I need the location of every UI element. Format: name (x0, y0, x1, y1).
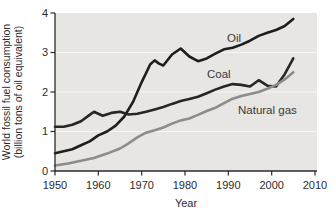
x-tick-label-1960: 1960 (86, 179, 110, 191)
y-axis-title-line2: (billion tons of oil equivalent) (12, 26, 24, 159)
y-tick-label-1: 1 (42, 125, 48, 137)
x-tick-label-1970: 1970 (129, 179, 153, 191)
x-tick-label-1980: 1980 (173, 179, 197, 191)
chart-canvas: 012341950196019701980199020002010 Oil Co… (0, 0, 336, 212)
y-tick-label-3: 3 (42, 46, 48, 58)
series-label-oil: Oil (227, 32, 241, 44)
y-tick-label-0: 0 (42, 165, 48, 177)
y-tick-label-4: 4 (42, 7, 48, 19)
x-tick-label-2010: 2010 (303, 179, 327, 191)
series-label-natural-gas: Natural gas (238, 104, 297, 116)
x-axis-title: Year (175, 197, 198, 209)
series-label-coal: Coal (207, 68, 231, 80)
x-tick-label-1990: 1990 (216, 179, 240, 191)
x-tick-label-1950: 1950 (43, 179, 67, 191)
x-tick-label-2000: 2000 (259, 179, 283, 191)
y-axis-title-line1: World fossil fuel consumption (0, 24, 12, 161)
world-fossil-fuel-consumption-chart: 012341950196019701980199020002010 Oil Co… (0, 0, 336, 212)
y-tick-label-2: 2 (42, 86, 48, 98)
